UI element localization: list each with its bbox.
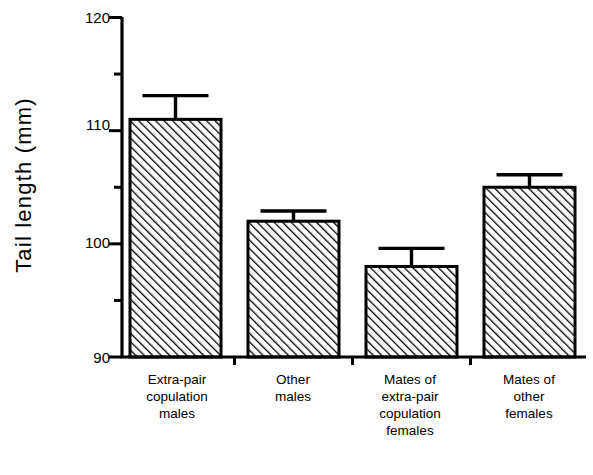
- error-bar: [497, 175, 563, 187]
- x-category-label-2: Mates of extra-pair copulation females: [355, 371, 465, 439]
- y-axis-ticks: [109, 18, 122, 358]
- bar: [366, 266, 457, 357]
- error-bar: [379, 248, 445, 266]
- x-category-label-1: Other males: [238, 371, 348, 405]
- y-tick-label-110: 110: [56, 116, 110, 133]
- x-category-label-0-line-2: males: [122, 405, 232, 422]
- x-category-label-3-line-2: females: [474, 405, 584, 422]
- bar: [484, 187, 575, 357]
- x-category-label-3-line-1: other: [474, 388, 584, 405]
- bar: [248, 221, 339, 357]
- x-category-label-2-line-0: Mates of: [355, 371, 465, 388]
- x-category-label-0-line-0: Extra-pair: [122, 371, 232, 388]
- bar-series: [130, 119, 575, 357]
- x-category-label-2-line-1: extra-pair: [355, 388, 465, 405]
- error-bar: [261, 211, 327, 221]
- x-category-label-1-line-1: males: [238, 388, 348, 405]
- x-category-label-2-line-3: females: [355, 422, 465, 439]
- y-tick-label-100: 100: [56, 234, 110, 251]
- error-bar: [143, 96, 209, 120]
- x-category-label-3: Mates of other females: [474, 371, 584, 422]
- x-category-label-2-line-2: copulation: [355, 405, 465, 422]
- x-category-label-0-line-1: copulation: [122, 388, 232, 405]
- y-tick-label-90: 90: [56, 349, 110, 366]
- x-category-label-1-line-0: Other: [238, 371, 348, 388]
- y-tick-label-120: 120: [56, 9, 110, 26]
- bar: [130, 119, 221, 357]
- x-category-label-3-line-0: Mates of: [474, 371, 584, 388]
- bar-chart-figure: Tail length (mm) 120 110 100 90 Extra-pa…: [0, 0, 593, 475]
- x-category-label-0: Extra-pair copulation males: [122, 371, 232, 422]
